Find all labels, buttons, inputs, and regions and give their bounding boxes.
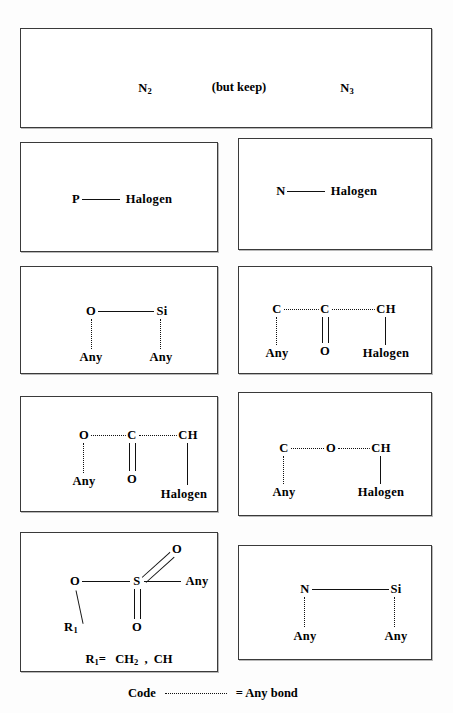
- atom-o-sulfonyl-top: O: [170, 543, 183, 556]
- atom-any-left: Any: [78, 351, 104, 364]
- atom-any: Any: [264, 347, 290, 360]
- legend-code-label: Code: [128, 686, 156, 701]
- r1-definition: R1= CH2 , CH: [85, 653, 172, 667]
- bond-o-any: [83, 443, 84, 473]
- atom-o-ester: O: [68, 575, 81, 588]
- bond-ch-halogen: [187, 443, 188, 485]
- atom-halogen: Halogen: [329, 185, 379, 198]
- atom-n: N: [275, 185, 287, 198]
- bond-o-ch: [338, 448, 370, 449]
- atom-c: C: [126, 429, 138, 442]
- panel-o-si: O Si Any Any: [20, 266, 218, 374]
- bond-s-o-vertical-a: [134, 589, 135, 619]
- bond-o-any: [91, 319, 92, 349]
- atom-si: Si: [155, 305, 169, 318]
- atom-s: S: [132, 575, 142, 588]
- atom-o: O: [324, 442, 337, 455]
- bond-ch-halogen: [380, 456, 381, 484]
- atom-any-right: Any: [383, 630, 409, 643]
- bond-c-o-double-b: [135, 443, 136, 471]
- bond-c-o-double-a: [129, 443, 130, 471]
- atom-c-left: C: [271, 303, 283, 316]
- atom-any: Any: [271, 486, 297, 499]
- panel-p-halogen: P Halogen: [20, 142, 218, 252]
- panel-o-c-ch: O C CH Any O Halogen: [20, 396, 218, 512]
- bond-o-r1: [76, 590, 84, 623]
- atom-any: Any: [184, 575, 210, 588]
- bond-c-c: [284, 309, 319, 310]
- bond-o-s: [82, 581, 130, 582]
- bond-n-halogen: [287, 191, 325, 192]
- panel-azide: N2 (but keep) N3: [20, 28, 432, 128]
- bond-c-any: [276, 317, 277, 345]
- atom-halogen: Halogen: [361, 347, 411, 360]
- atom-n: N: [299, 583, 311, 596]
- bond-c-o-double-a: [322, 317, 323, 343]
- label-n2: N2: [138, 82, 151, 96]
- label-n3: N3: [340, 82, 353, 96]
- atom-o-sulfonyl-bottom: O: [130, 621, 143, 634]
- atom-o-carbonyl: O: [125, 473, 138, 486]
- atom-o-left: O: [77, 429, 90, 442]
- legend-any-bond: Code = Any bond: [128, 686, 298, 701]
- label-but-keep: (but keep): [212, 81, 267, 94]
- atom-c: C: [278, 442, 290, 455]
- bond-p-halogen: [82, 199, 120, 200]
- bond-s-o-vertical-b: [140, 589, 141, 619]
- atom-halogen: Halogen: [356, 486, 406, 499]
- bond-c-o-double-b: [328, 317, 329, 343]
- atom-ch: CH: [177, 429, 199, 442]
- bond-si-any: [394, 597, 395, 627]
- atom-ch: CH: [375, 303, 397, 316]
- atom-c-center: C: [319, 303, 331, 316]
- atom-p: P: [71, 193, 82, 206]
- panel-c-c-ch: C C CH Any O Halogen: [238, 266, 432, 374]
- bond-si-any: [160, 319, 161, 349]
- bond-o-si: [98, 311, 154, 312]
- atom-r1: R1: [63, 621, 80, 635]
- atom-o-carbonyl: O: [318, 345, 331, 358]
- bond-c-o: [291, 448, 324, 449]
- atom-any-right: Any: [148, 351, 174, 364]
- panel-c-o-ch: C O CH Any Halogen: [238, 392, 432, 516]
- atom-any-left: Any: [292, 630, 318, 643]
- atom-any: Any: [71, 475, 97, 488]
- bond-n-si: [312, 589, 389, 590]
- atom-ch: CH: [370, 442, 392, 455]
- figure-sheet: N2 (but keep) N3 P Halogen N Halogen O S…: [0, 0, 453, 713]
- legend-dotted-line-sample: [165, 693, 227, 694]
- bond-o-c: [91, 435, 126, 436]
- panel-n-halogen: N Halogen: [238, 138, 432, 250]
- bond-c-ch: [332, 309, 375, 310]
- bond-ch-halogen: [385, 317, 386, 345]
- atom-o: O: [84, 305, 97, 318]
- panel-sulfonate: O S Any O O R1 R1= CH2 , CH: [20, 532, 218, 672]
- bond-c-any: [283, 456, 284, 484]
- atom-si: Si: [389, 583, 403, 596]
- bond-s-any: [144, 581, 181, 582]
- atom-halogen: Halogen: [124, 193, 174, 206]
- legend-any-bond-text: = Any bond: [236, 686, 298, 701]
- atom-halogen: Halogen: [159, 488, 209, 501]
- bond-c-ch: [139, 435, 177, 436]
- panel-n-si: N Si Any Any: [238, 545, 432, 660]
- bond-n-any: [304, 597, 305, 627]
